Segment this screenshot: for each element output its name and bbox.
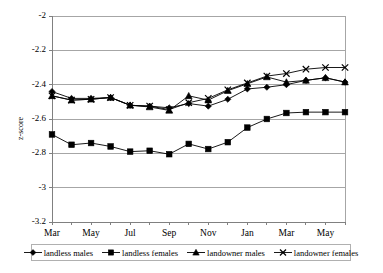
series-landless-females <box>49 109 348 157</box>
marker-square <box>205 146 211 152</box>
marker-square <box>264 116 270 122</box>
legend-item[interactable]: landless females <box>102 248 178 258</box>
series-line <box>52 78 345 108</box>
series-line <box>52 68 345 110</box>
marker-diamond <box>205 103 211 109</box>
legend-marker-diamond-icon <box>24 248 42 257</box>
legend-item[interactable]: landless males <box>24 248 93 258</box>
marker-square <box>108 250 113 255</box>
legend-item[interactable]: landowner males <box>187 248 265 258</box>
x-tick-label: Jan <box>227 228 267 238</box>
legend-marker-x-icon <box>274 248 292 257</box>
legend-label: landowner males <box>207 248 265 258</box>
marker-diamond <box>30 250 36 256</box>
legend-marker-triangle-icon <box>187 248 205 257</box>
marker-square <box>147 148 153 154</box>
grid-lines <box>52 16 345 222</box>
x-tick-label: Nov <box>188 228 228 238</box>
marker-square <box>88 140 94 146</box>
series-line <box>52 77 345 110</box>
axes <box>49 16 345 225</box>
series-line <box>52 112 345 154</box>
x-tick-label: May <box>305 228 345 238</box>
marker-square <box>342 109 348 115</box>
x-tick-label: May <box>71 228 111 238</box>
marker-square <box>49 132 55 138</box>
marker-square <box>166 151 172 157</box>
marker-square <box>225 139 231 145</box>
marker-square <box>303 109 309 115</box>
marker-square <box>69 142 75 148</box>
legend-label: landless males <box>44 248 93 258</box>
legend-marker-square-icon <box>102 248 120 257</box>
chart-container: z-score -2-2.2-2.4-2.6-2.8-3-3.2 MarMayJ… <box>0 0 383 273</box>
marker-triangle <box>185 92 192 98</box>
legend-item[interactable]: landowner females <box>274 248 358 258</box>
marker-diamond <box>225 96 231 102</box>
x-tick-label: Jul <box>110 228 150 238</box>
series-landowner-females <box>49 64 348 112</box>
x-tick-label: Sep <box>149 228 189 238</box>
marker-square <box>284 110 290 116</box>
marker-square <box>186 141 192 147</box>
chart-legend: landless maleslandless femaleslandowner … <box>31 244 351 261</box>
x-tick-label: Mar <box>32 228 72 238</box>
marker-square <box>108 144 114 150</box>
marker-square <box>245 125 251 131</box>
x-tick-label: Mar <box>266 228 306 238</box>
legend-label: landless females <box>122 248 178 258</box>
series-landless-males <box>49 75 348 111</box>
legend-label: landowner females <box>294 248 358 258</box>
marker-square <box>127 149 133 155</box>
marker-square <box>323 109 329 115</box>
